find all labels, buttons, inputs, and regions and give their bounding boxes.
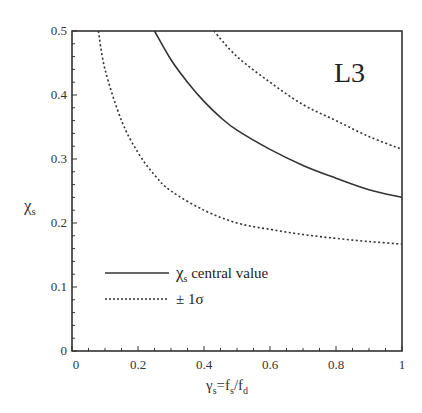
legend: χs central value ± 1σ [105, 263, 269, 307]
legend-item-sigma: ± 1σ [176, 291, 204, 307]
x-tick-label: 1 [399, 357, 406, 372]
x-tick-label: 0.8 [328, 357, 344, 372]
chart: 00.20.40.60.8100.10.20.30.40.5 L3 χs γs=… [0, 0, 422, 413]
y-tick-label: 0.3 [51, 151, 67, 166]
x-axis-title: γs=fs/fd [205, 377, 248, 396]
y-tick-label: 0 [61, 343, 68, 358]
y-tick-label: 0.4 [51, 87, 68, 102]
x-tick-label: 0.4 [196, 357, 213, 372]
panel-label: L3 [334, 57, 365, 88]
x-axis-title-eq: =f [217, 377, 230, 393]
x-axis-title-slash: /f [234, 377, 243, 393]
y-tick-label: 0.2 [51, 215, 67, 230]
series-line-1 [214, 31, 402, 149]
series-line-0 [155, 31, 403, 197]
legend-central-rest: central value [187, 265, 268, 281]
x-tick-label: 0.2 [130, 357, 146, 372]
x-axis-title-fd-sub: d [243, 385, 248, 396]
x-tick-label: 0 [73, 357, 80, 372]
y-axis-title-sub: s [32, 205, 36, 217]
y-axis-title: χs [23, 196, 36, 217]
legend-item-central: χs central value [175, 263, 269, 284]
y-tick-label: 0.5 [51, 23, 67, 38]
y-tick-label: 0.1 [51, 279, 67, 294]
x-tick-label: 0.6 [262, 357, 279, 372]
